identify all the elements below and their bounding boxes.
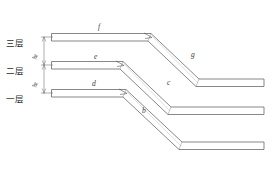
segment-label-g: g: [191, 50, 195, 59]
beam-middle-e: [52, 62, 265, 115]
segment-label-f: f: [98, 22, 100, 31]
beam-top-f: [52, 34, 265, 87]
floor-label-3: 三层: [6, 36, 24, 48]
dimension-label-h-upper: h: [34, 53, 37, 59]
dimension-label-h-lower: h: [34, 81, 37, 87]
diagram-canvas: 三层 二层 一层 h h f e d g c b: [0, 0, 276, 169]
segment-label-b: b: [142, 106, 146, 115]
segment-label-d: d: [92, 79, 96, 88]
segment-label-c: c: [167, 78, 170, 87]
floor-label-2: 二层: [6, 64, 24, 76]
floor-label-1: 一层: [6, 92, 24, 104]
structure-drawing: [0, 0, 276, 169]
segment-label-e: e: [94, 52, 97, 61]
dimension-chain: [41, 37, 53, 95]
